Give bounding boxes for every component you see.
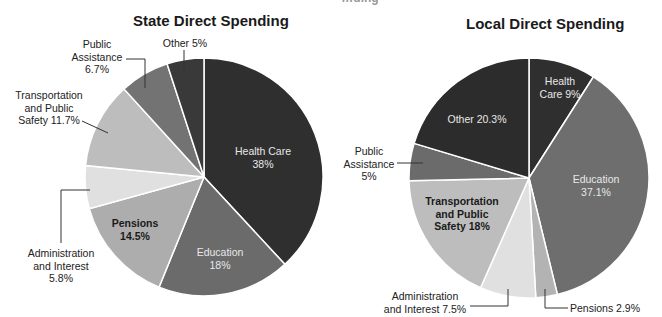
label-line: 37.1% — [566, 186, 626, 199]
local-label-other: Other 20.3% — [442, 113, 512, 126]
label-line: Education — [566, 173, 626, 186]
local-label-health-care: Health Care 9% — [535, 75, 585, 100]
label-line: and Public — [420, 208, 504, 221]
label-line: Safety 11.7% — [12, 114, 86, 127]
label-line: Transportation — [420, 195, 504, 208]
label-line: 6.7% — [68, 63, 126, 76]
label-line: Safety 18% — [420, 220, 504, 233]
label-line: Assistance — [341, 158, 397, 171]
label-line: Public — [68, 38, 126, 51]
local-label-transport: Transportation and Public Safety 18% — [420, 195, 504, 233]
label-line: 14.5% — [110, 230, 160, 243]
local-label-pensions: Pensions 2.9% — [570, 302, 652, 315]
label-line: and Interest 7.5% — [383, 303, 467, 316]
label-line: Health Care — [228, 145, 298, 158]
label-line: 5.8% — [22, 272, 100, 285]
local-label-admin: Administration and Interest 7.5% — [383, 290, 467, 315]
label-line: Pensions 2.9% — [570, 302, 652, 315]
state-label-pensions: Pensions 14.5% — [110, 217, 160, 242]
label-line: and Interest — [22, 260, 100, 273]
state-label-education: Education 18% — [190, 246, 250, 271]
label-line: Other 20.3% — [442, 113, 512, 126]
label-line: Pensions — [110, 217, 160, 230]
label-line: Public — [341, 145, 397, 158]
state-label-admin: Administration and Interest 5.8% — [22, 247, 100, 285]
label-line: 38% — [228, 158, 298, 171]
label-line: 5% — [341, 170, 397, 183]
label-line: Assistance — [68, 51, 126, 64]
label-line: and Public — [12, 102, 86, 115]
label-line: Care 9% — [535, 88, 585, 101]
state-label-transport: Transportation and Public Safety 11.7% — [12, 89, 86, 127]
label-line: Transportation — [12, 89, 86, 102]
label-line: Administration — [383, 290, 467, 303]
label-line: Education — [190, 246, 250, 259]
state-label-public-assistance: Public Assistance 6.7% — [68, 38, 126, 76]
local-label-education: Education 37.1% — [566, 173, 626, 198]
leader-state-admin — [61, 190, 90, 243]
local-label-public-assistance: Public Assistance 5% — [341, 145, 397, 183]
label-line: 18% — [190, 259, 250, 272]
state-label-other: Other 5% — [160, 37, 210, 50]
label-line: Administration — [22, 247, 100, 260]
label-line: Health — [535, 75, 585, 88]
state-label-health-care: Health Care 38% — [228, 145, 298, 170]
label-line: Other 5% — [160, 37, 210, 50]
